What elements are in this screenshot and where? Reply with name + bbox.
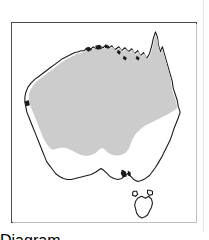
scan-artifact-line [203, 0, 204, 232]
australia-distribution-map [12, 23, 196, 222]
map-figure [0, 0, 209, 232]
flinders-island-outline [148, 190, 153, 195]
map-frame-border [11, 22, 197, 223]
tasmania-outline [135, 196, 153, 218]
king-island-outline [133, 191, 138, 196]
